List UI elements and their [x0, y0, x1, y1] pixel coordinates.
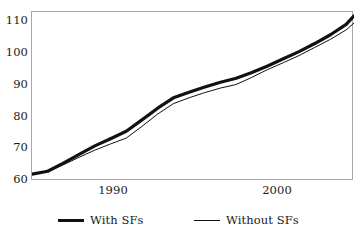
legend-swatch-thin-line-icon	[194, 220, 220, 221]
legend-item-without-sfs: Without SFs	[194, 212, 299, 228]
legend-swatch-thick-line-icon	[58, 219, 84, 222]
y-tick-label-90: 90	[0, 79, 28, 91]
y-tick-label-110: 110	[0, 15, 28, 27]
chart-legend: With SFs Without SFs	[0, 212, 360, 232]
legend-label-without-sfs: Without SFs	[226, 214, 299, 227]
x-axis: 1990 2000	[0, 184, 360, 204]
y-tick-label-70: 70	[0, 142, 28, 154]
plot-area	[31, 11, 353, 180]
y-axis: 110 100 90 80 70 60	[0, 0, 28, 195]
y-tick-label-80: 80	[0, 111, 28, 123]
y-tick-label-100: 100	[0, 47, 28, 59]
chart-figure: 110 100 90 80 70 60 1990 2000 With SFs W…	[0, 0, 360, 235]
x-tick-label-2000: 2000	[262, 184, 292, 197]
legend-label-with-sfs: With SFs	[90, 214, 144, 227]
x-tick-label-1990: 1990	[98, 184, 128, 197]
series-line-with-sfs	[32, 16, 354, 174]
series-canvas	[32, 12, 354, 181]
series-line-without-sfs	[32, 23, 354, 174]
legend-item-with-sfs: With SFs	[58, 212, 144, 228]
